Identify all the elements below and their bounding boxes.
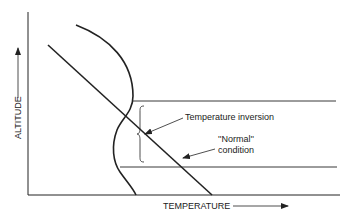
y-axis-label: ALTITUDE: [13, 96, 23, 139]
normal-leader-line: [183, 149, 215, 158]
inversion-leader-line: [145, 118, 183, 134]
x-axis-label: TEMPERATURE: [163, 201, 230, 211]
normal-label-line2: condition: [218, 145, 254, 155]
normal-label-line1: ''Normal'': [218, 134, 254, 144]
inversion-curve: [76, 25, 136, 195]
x-axis-label-group: TEMPERATURE: [163, 201, 288, 211]
temperature-inversion-diagram: ALTITUDE TEMPERATURE Temperature inversi…: [0, 0, 350, 223]
inversion-bracket: [137, 106, 144, 162]
inversion-label: Temperature inversion: [185, 112, 274, 122]
y-axis-label-group: ALTITUDE: [13, 48, 23, 139]
